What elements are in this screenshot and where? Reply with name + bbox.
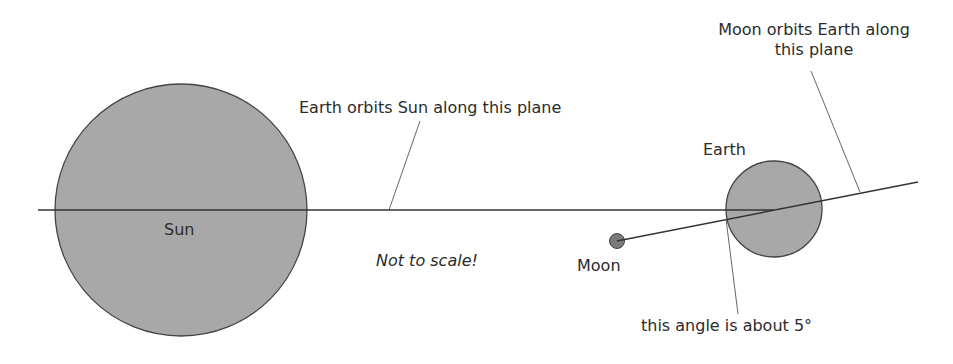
earth-orbit-leader-line bbox=[389, 121, 420, 210]
moon-orbit-plane-annotation-line2: this plane bbox=[676, 40, 952, 60]
moon-orbit-plane-annotation-line1: Moon orbits Earth along bbox=[676, 20, 952, 40]
moon-label: Moon bbox=[577, 256, 621, 276]
moon-orbit-leader-line bbox=[811, 71, 860, 192]
angle-annotation: this angle is about 5° bbox=[641, 316, 812, 336]
sun-label: Sun bbox=[164, 220, 194, 240]
orbital-planes-diagram: Sun Earth Moon Earth orbits Sun along th… bbox=[0, 0, 953, 364]
scale-note: Not to scale! bbox=[376, 251, 478, 271]
moon-orbit-plane-annotation: Moon orbits Earth along this plane bbox=[676, 20, 952, 60]
earth-orbit-plane-annotation: Earth orbits Sun along this plane bbox=[299, 98, 561, 118]
earth-circle bbox=[726, 161, 822, 257]
earth-label: Earth bbox=[703, 140, 746, 160]
